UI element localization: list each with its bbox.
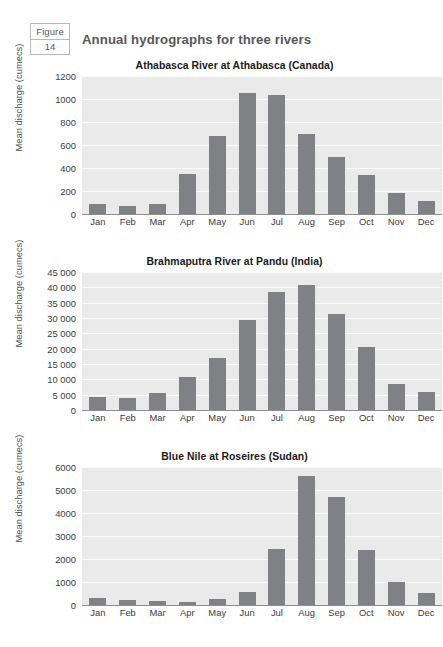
bar-may: [209, 136, 226, 214]
plot-canvas: [82, 272, 442, 410]
bar-sep: [328, 314, 345, 410]
plot-canvas: [82, 76, 442, 214]
x-tick-label: Dec: [413, 216, 439, 227]
y-axis-ticks: 05 00010 00015 00020 00025 00030 00035 0…: [24, 272, 80, 424]
x-tick-label: Mar: [145, 607, 171, 618]
x-tick-label: Apr: [174, 412, 200, 423]
x-axis-line: [82, 214, 442, 215]
x-tick-label: Dec: [413, 607, 439, 618]
y-tick-label: 1000: [55, 94, 76, 105]
y-tick-label: 45 000: [47, 267, 76, 278]
y-axis-title-wrap: Mean discharge (cumecs): [0, 467, 24, 619]
y-tick-label: 40 000: [47, 282, 76, 293]
x-tick-label: Feb: [115, 216, 141, 227]
bar-apr: [179, 174, 196, 214]
y-axis-ticks: 0100020003000400050006000: [24, 467, 80, 619]
y-axis-ticks: 020040060080010001200: [24, 76, 80, 228]
y-tick-label: 1200: [55, 71, 76, 82]
y-tick-label: 0: [71, 405, 76, 416]
x-tick-label: Jun: [234, 412, 260, 423]
bar-aug: [298, 285, 315, 410]
bar-oct: [358, 175, 375, 214]
y-tick-label: 15 000: [47, 359, 76, 370]
bar-sep: [328, 157, 345, 215]
bar-dec: [418, 201, 435, 214]
bar-jun: [239, 320, 256, 410]
bar-jul: [268, 549, 285, 605]
y-axis-title: Mean discharge (cumecs): [13, 28, 24, 168]
bar-sep: [328, 497, 345, 605]
x-tick-label: Oct: [353, 216, 379, 227]
y-axis-title-wrap: Mean discharge (cumecs): [0, 272, 24, 424]
x-tick-label: May: [204, 607, 230, 618]
bar-oct: [358, 347, 375, 410]
y-tick-label: 600: [60, 140, 76, 151]
x-tick-label: Nov: [383, 607, 409, 618]
y-tick-label: 30 000: [47, 313, 76, 324]
x-tick-label: Feb: [115, 607, 141, 618]
y-tick-label: 4000: [55, 508, 76, 519]
bar-jan: [89, 204, 106, 214]
y-tick-label: 0: [71, 209, 76, 220]
x-tick-label: Jan: [85, 216, 111, 227]
x-axis-labels: JanFebMarAprMayJunJulAugSepOctNovDec: [82, 412, 442, 423]
y-tick-label: 800: [60, 117, 76, 128]
bar-mar: [149, 204, 166, 214]
y-tick-label: 0: [71, 600, 76, 611]
x-tick-label: Jun: [234, 607, 260, 618]
bar-may: [209, 358, 226, 410]
y-tick-label: 400: [60, 163, 76, 174]
x-tick-label: Jun: [234, 216, 260, 227]
y-axis-title: Mean discharge (cumecs): [13, 419, 24, 559]
chart-plot-area: Mean discharge (cumecs) 0100020003000400…: [0, 467, 443, 619]
x-axis-labels: JanFebMarAprMayJunJulAugSepOctNovDec: [82, 216, 442, 227]
plot-canvas: [82, 467, 442, 605]
x-tick-label: Aug: [294, 607, 320, 618]
y-tick-label: 25 000: [47, 328, 76, 339]
x-tick-label: Nov: [383, 216, 409, 227]
x-tick-label: Nov: [383, 412, 409, 423]
x-axis-line: [82, 410, 442, 411]
x-tick-label: Mar: [145, 216, 171, 227]
chart-athabasca-river: Athabasca River at Athabasca (Canada) Me…: [0, 60, 443, 228]
figure-header: Figure 14 Annual hydrographs for three r…: [0, 22, 443, 56]
x-tick-label: Jul: [264, 216, 290, 227]
y-tick-label: 2000: [55, 554, 76, 565]
x-tick-label: Aug: [294, 412, 320, 423]
y-axis-title: Mean discharge (cumecs): [13, 224, 24, 364]
bar-series: [82, 272, 442, 410]
bar-oct: [358, 550, 375, 605]
y-tick-label: 35 000: [47, 297, 76, 308]
y-tick-label: 3000: [55, 531, 76, 542]
x-tick-label: Sep: [324, 607, 350, 618]
bar-apr: [179, 377, 196, 410]
figure-badge-label: Figure: [31, 24, 69, 40]
chart-blue-nile: Blue Nile at Roseires (Sudan) Mean disch…: [0, 451, 443, 619]
bar-mar: [149, 393, 166, 410]
x-tick-label: Mar: [145, 412, 171, 423]
y-tick-label: 1000: [55, 577, 76, 588]
bar-dec: [418, 593, 435, 605]
chart-brahmaputra-river: Brahmaputra River at Pandu (India) Mean …: [0, 256, 443, 424]
x-tick-label: Dec: [413, 412, 439, 423]
y-tick-label: 5000: [55, 485, 76, 496]
bar-jun: [239, 592, 256, 605]
bar-feb: [119, 206, 136, 214]
bar-aug: [298, 476, 315, 605]
y-axis-title-wrap: Mean discharge (cumecs): [0, 76, 24, 228]
bar-nov: [388, 193, 405, 214]
bar-feb: [119, 398, 136, 410]
figure-title: Annual hydrographs for three rivers: [82, 32, 311, 47]
x-tick-label: Sep: [324, 216, 350, 227]
chart-plot-area: Mean discharge (cumecs) 0200400600800100…: [0, 76, 443, 228]
y-tick-label: 10 000: [47, 374, 76, 385]
bar-jan: [89, 397, 106, 410]
y-tick-label: 20 000: [47, 343, 76, 354]
figure-badge-number: 14: [31, 40, 69, 55]
y-tick-label: 200: [60, 186, 76, 197]
chart-plot-area: Mean discharge (cumecs) 05 00010 00015 0…: [0, 272, 443, 424]
bar-jun: [239, 93, 256, 214]
bar-aug: [298, 134, 315, 215]
bar-nov: [388, 582, 405, 605]
x-tick-label: Sep: [324, 412, 350, 423]
